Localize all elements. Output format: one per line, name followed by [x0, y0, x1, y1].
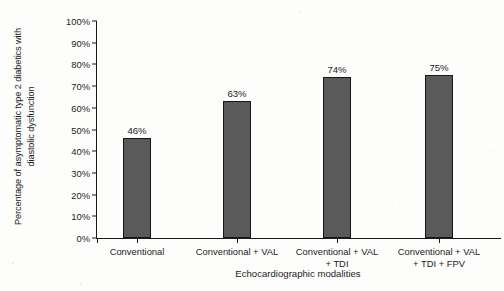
x-tick-mark	[337, 238, 338, 243]
x-category-label-1: Conventional	[110, 246, 165, 258]
bar-value-label: 75%	[429, 62, 448, 73]
bar-conventional-val-tdi[interactable]: 74%	[323, 77, 351, 238]
x-category-line: Conventional + VAL	[196, 246, 278, 258]
y-tick-label-40: 40%	[71, 146, 97, 157]
y-tick-label-20: 20%	[71, 189, 97, 200]
y-axis-title-line-2: diastolic dysfunction	[24, 28, 37, 225]
bar-conventional[interactable]: 46%	[123, 138, 151, 238]
y-tick-label-60: 60%	[71, 102, 97, 113]
x-category-label-2: Conventional + VAL	[196, 246, 278, 258]
y-axis-title-line-1: Percentage of asymptomatic type 2 diabet…	[12, 28, 25, 225]
bar-conventional-val[interactable]: 63%	[223, 101, 251, 238]
x-tick-mark	[137, 238, 138, 243]
y-tick-label-30: 30%	[71, 167, 97, 178]
bar-value-label: 74%	[327, 64, 346, 75]
x-category-label-3: Conventional + VAL + TDI	[296, 246, 378, 269]
bar-value-label: 63%	[227, 88, 246, 99]
y-tick-label-10: 10%	[71, 211, 97, 222]
x-category-line: Conventional	[110, 246, 165, 258]
chart-screenshot: Percentage of asymptomatic type 2 diabet…	[0, 0, 504, 291]
y-tick-label-50: 50%	[71, 124, 97, 135]
bar-value-label: 46%	[127, 125, 146, 136]
x-tick-mark	[237, 238, 238, 243]
x-tick-mark	[439, 238, 440, 243]
x-axis-title: Echocardiographic modalities	[96, 268, 500, 279]
y-tick-label-0: 0%	[76, 233, 97, 244]
x-tick-mark	[97, 238, 98, 243]
y-tick-label-90: 90%	[71, 37, 97, 48]
bar-conventional-val-tdi-fpv[interactable]: 75%	[425, 75, 453, 238]
plot-area: 100% 90% 80% 70% 60% 50% 40% 30% 20% 10%…	[96, 21, 501, 239]
x-category-line: Conventional + VAL	[398, 246, 480, 258]
y-tick-label-70: 70%	[71, 81, 97, 92]
y-tick-label-100: 100%	[66, 16, 97, 27]
y-axis-title: Percentage of asymptomatic type 2 diabet…	[0, 0, 48, 252]
y-tick-label-80: 80%	[71, 59, 97, 70]
x-category-line: Conventional + VAL	[296, 246, 378, 258]
x-category-label-4: Conventional + VAL + TDI + FPV	[398, 246, 480, 269]
